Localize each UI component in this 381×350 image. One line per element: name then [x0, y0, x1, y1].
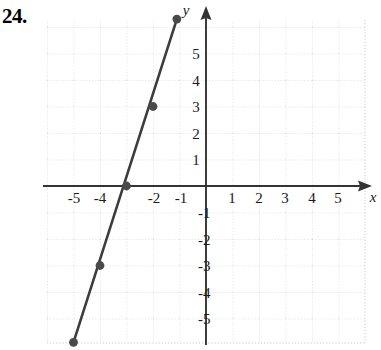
data-point-marker	[172, 15, 181, 24]
x-tick-label-2: 2	[255, 190, 263, 206]
y-tick-label-3: 3	[192, 99, 200, 115]
y-tick-label-4: 4	[192, 73, 200, 89]
y-tick-label--1: -1	[198, 205, 211, 221]
y-tick-label--2: -2	[198, 232, 211, 248]
y-tick-label--3: -3	[198, 258, 211, 274]
data-point-marker	[122, 182, 131, 191]
y-tick-label-5: 5	[192, 46, 200, 62]
data-point-marker	[149, 102, 158, 111]
x-tick-label-4: 4	[308, 190, 316, 206]
x-tick-label-5: 5	[334, 190, 342, 206]
data-point-marker	[69, 338, 78, 347]
y-tick-label-1: 1	[192, 152, 200, 168]
y-tick-label--4: -4	[198, 285, 211, 301]
data-point-marker	[96, 261, 105, 270]
y-tick-label-2: 2	[192, 126, 200, 142]
x-tick-label--5: -5	[68, 190, 81, 206]
coordinate-plane: y x -5 -4 -2 -1 1 2 3 4 5 5 4 3 2 1 -1 -…	[0, 0, 381, 350]
y-tick-label--5: -5	[198, 311, 211, 327]
graph-figure: 24. y x -5 -4 -2 -1 1 2 3 4	[0, 0, 381, 350]
x-tick-label--1: -1	[175, 190, 188, 206]
x-tick-label-1: 1	[228, 190, 236, 206]
x-tick-label-3: 3	[281, 190, 289, 206]
y-axis-label: y	[181, 2, 190, 18]
y-axis-arrowhead	[201, 6, 212, 20]
x-tick-label--4: -4	[94, 190, 107, 206]
x-axis-label: x	[369, 189, 377, 205]
x-tick-label--2: -2	[148, 190, 161, 206]
